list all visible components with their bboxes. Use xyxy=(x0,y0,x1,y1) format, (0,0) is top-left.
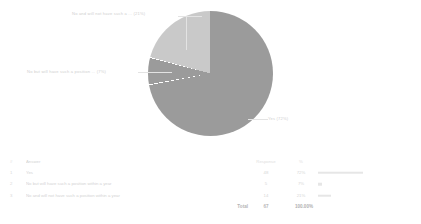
row-bar-cell xyxy=(318,190,394,202)
row-bar-fill xyxy=(318,183,322,186)
row-percent: 21% xyxy=(284,194,318,198)
total-percent: 100.00% xyxy=(284,205,324,210)
pie-slice-label-yes: Yes (72%) xyxy=(268,117,288,121)
pie-graphic xyxy=(148,11,273,136)
row-percent: 7% xyxy=(284,182,318,186)
table-row: 3 No and will not have such a position w… xyxy=(10,190,412,202)
row-bar-fill xyxy=(318,194,331,197)
row-response: 14 xyxy=(248,194,284,198)
row-percent: 72% xyxy=(284,171,318,175)
column-header-answer: Answer xyxy=(26,160,248,164)
row-answer: Yes xyxy=(26,171,248,175)
column-header-number: # xyxy=(10,160,26,164)
table-row: 2 No but will have such a position withi… xyxy=(10,179,412,191)
row-number: 2 xyxy=(10,182,26,186)
total-response: 67 xyxy=(248,205,284,210)
leader-line-top-vertical xyxy=(186,16,187,50)
table-row: 1 Yes 48 72% xyxy=(10,167,412,179)
row-number: 1 xyxy=(10,171,26,175)
pie-chart xyxy=(148,11,273,136)
pie-chart-area: No and will not have such a ... (21%) No… xyxy=(0,0,421,150)
row-bar-fill xyxy=(318,171,363,174)
row-answer: No and will not have such a position wit… xyxy=(26,194,248,198)
pie-slice-label-no-will-not: No and will not have such a ... (21%) xyxy=(72,12,145,16)
table-total-row: Total 67 100.00% xyxy=(10,202,412,214)
answer-summary-table: # Answer Response % 1 Yes 48 72% 2 No bu… xyxy=(10,157,412,214)
row-response: 5 xyxy=(248,182,284,186)
leader-line-right xyxy=(248,119,268,120)
row-answer: No but will have such a position within … xyxy=(26,182,248,186)
leader-line-top xyxy=(178,16,202,17)
leader-line-left xyxy=(138,72,172,73)
column-header-percent: % xyxy=(284,160,318,164)
table-header-row: # Answer Response % xyxy=(10,157,412,167)
row-response: 48 xyxy=(248,171,284,175)
column-header-response: Response xyxy=(248,160,284,164)
total-label: Total xyxy=(210,205,248,210)
row-number: 3 xyxy=(10,194,26,198)
row-bar-cell xyxy=(318,167,394,179)
report-page: No and will not have such a ... (21%) No… xyxy=(0,0,421,224)
row-bar-cell xyxy=(318,179,394,191)
pie-slice-label-no-but-will: No but will have such a position ... (7%… xyxy=(27,70,106,74)
